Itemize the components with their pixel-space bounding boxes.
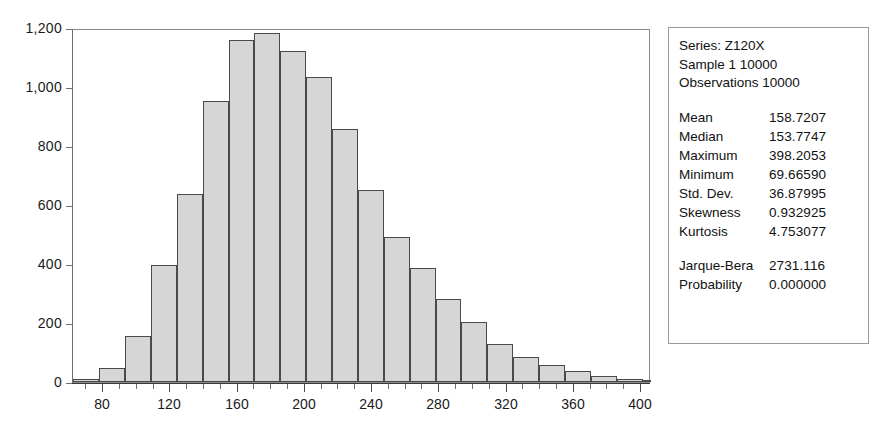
histogram-bar (513, 357, 539, 382)
x-axis-label: 160 (212, 396, 262, 412)
statistic-row: Std. Dev.36.87995 (679, 184, 868, 203)
statistic-value: 153.7747 (769, 127, 868, 146)
x-axis-label: 280 (413, 396, 463, 412)
statistic-row: Mean158.7207 (679, 108, 868, 127)
histogram-bar (254, 33, 280, 382)
x-axis-tick-minor (136, 384, 137, 389)
statistic-row: Kurtosis4.753077 (679, 222, 868, 241)
x-axis-tick-minor (472, 384, 473, 389)
histogram-bar (280, 51, 306, 382)
x-axis-tick-major (573, 384, 574, 392)
statistic-name: Probability (679, 275, 769, 294)
x-axis-label: 320 (481, 396, 531, 412)
x-axis-label: 200 (279, 396, 329, 412)
statistic-name: Jarque-Bera (679, 256, 769, 275)
statistic-test-row: Jarque-Bera2731.116 (679, 256, 868, 275)
x-axis-tick-major (304, 384, 305, 392)
x-axis-tick-major (169, 384, 170, 392)
x-axis-tick-minor (253, 384, 254, 389)
statistics-rows: Mean158.7207Median153.7747Maximum398.205… (679, 108, 868, 241)
y-axis-tick (66, 265, 73, 266)
histogram-bar (487, 344, 513, 382)
histogram-bar (73, 379, 99, 382)
x-axis-label: 120 (144, 396, 194, 412)
y-axis-label: 0 (2, 374, 62, 390)
x-axis-tick-minor (287, 384, 288, 389)
x-axis-tick-major (640, 384, 641, 392)
x-axis-tick-major (371, 384, 372, 392)
x-axis-tick-minor (337, 384, 338, 389)
y-axis-tick (66, 88, 73, 89)
statistic-row: Skewness0.932925 (679, 203, 868, 222)
statistic-value: 2731.116 (769, 256, 868, 275)
histogram-bar (436, 299, 462, 382)
x-axis-tick-minor (539, 384, 540, 389)
x-axis-tick-minor (556, 384, 557, 389)
statistic-row: Minimum69.66590 (679, 165, 868, 184)
statistic-value: 4.753077 (769, 222, 868, 241)
histogram-bar (617, 379, 643, 382)
histogram-bar (125, 336, 151, 382)
statistic-test-row: Probability0.000000 (679, 275, 868, 294)
x-axis-tick-minor (354, 384, 355, 389)
y-axis-label: 600 (2, 197, 62, 213)
x-axis-tick-minor (153, 384, 154, 389)
bars-container (73, 30, 649, 382)
statistic-name: Std. Dev. (679, 184, 769, 203)
x-axis-tick-major (102, 384, 103, 392)
statistic-name: Median (679, 127, 769, 146)
statistic-name: Kurtosis (679, 222, 769, 241)
x-axis-tick-major (438, 384, 439, 392)
x-axis-label: 360 (548, 396, 598, 412)
statistic-value: 398.2053 (769, 146, 868, 165)
histogram-bar (99, 368, 125, 382)
statistic-name: Maximum (679, 146, 769, 165)
x-axis-tick-minor (270, 384, 271, 389)
x-axis-tick-minor (455, 384, 456, 389)
y-axis-tick (66, 324, 73, 325)
statistics-test-rows: Jarque-Bera2731.116Probability0.000000 (679, 256, 868, 294)
statistic-row: Maximum398.2053 (679, 146, 868, 165)
statistic-row: Median153.7747 (679, 127, 868, 146)
y-axis-label: 800 (2, 138, 62, 154)
statistic-name: Mean (679, 108, 769, 127)
x-axis-line (72, 383, 650, 384)
x-axis-label: 400 (615, 396, 665, 412)
y-axis-label: 400 (2, 256, 62, 272)
x-axis-tick-minor (186, 384, 187, 389)
x-axis-tick-minor (203, 384, 204, 389)
y-axis-tick (66, 206, 73, 207)
statistic-value: 69.66590 (769, 165, 868, 184)
x-axis-tick-minor (606, 384, 607, 389)
histogram-bar (461, 322, 487, 382)
histogram-bar (410, 268, 436, 382)
stats-spacer-2 (679, 241, 868, 256)
histogram-bar (177, 194, 203, 382)
x-axis-tick-minor (489, 384, 490, 389)
histogram-screenshot: 02004006008001,0001,200 8012016020024028… (0, 0, 880, 435)
y-axis-label: 200 (2, 315, 62, 331)
x-axis-tick-minor (421, 384, 422, 389)
histogram-bar (203, 101, 229, 382)
histogram-bar (332, 129, 358, 382)
x-axis-tick-major (237, 384, 238, 392)
x-axis-tick-minor (522, 384, 523, 389)
histogram-bar (565, 371, 591, 382)
y-axis-tick (66, 147, 73, 148)
histogram-bar (306, 77, 332, 382)
y-axis-label: 1,000 (2, 79, 62, 95)
x-axis-label: 80 (77, 396, 127, 412)
statistic-value: 158.7207 (769, 108, 868, 127)
x-axis-label: 240 (346, 396, 396, 412)
statistics-header-line: Observations 10000 (679, 74, 868, 93)
x-axis-tick-minor (623, 384, 624, 389)
statistic-name: Skewness (679, 203, 769, 222)
stats-spacer-1 (679, 93, 868, 108)
histogram-bar-tail (643, 380, 651, 382)
x-axis-tick-minor (388, 384, 389, 389)
x-axis-tick-major (506, 384, 507, 392)
y-axis-tick (66, 29, 73, 30)
statistic-value: 0.000000 (769, 275, 868, 294)
histogram-bar (539, 365, 565, 382)
x-axis-tick-minor (119, 384, 120, 389)
